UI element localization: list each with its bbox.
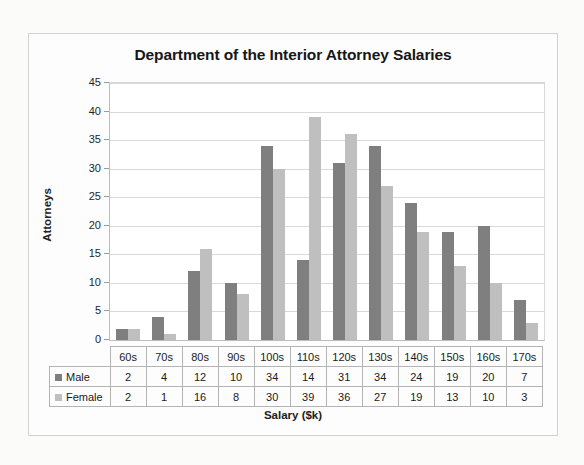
table-cell: 13	[434, 387, 470, 407]
y-axis-tick-mark	[104, 310, 109, 311]
male-swatch-icon	[55, 374, 62, 381]
bar-male-100s	[261, 146, 273, 340]
table-cell: 7	[506, 367, 542, 387]
table-cell: 16	[182, 387, 218, 407]
table-cell: 1	[146, 387, 182, 407]
bar-group	[291, 83, 327, 340]
bar-male-110s	[297, 260, 309, 340]
bar-male-140s	[405, 203, 417, 340]
bar-group	[219, 83, 255, 340]
bar-group	[255, 83, 291, 340]
y-axis-tick-mark	[104, 196, 109, 197]
bar-female-60s	[128, 329, 140, 340]
bar-male-60s	[116, 329, 128, 340]
legend-label: Male	[66, 371, 90, 383]
table-cell: 20	[470, 367, 506, 387]
y-axis-tick-label: 25	[61, 190, 101, 202]
x-axis-title: Salary ($k)	[29, 409, 557, 421]
bar-female-90s	[237, 294, 249, 340]
bar-female-170s	[526, 323, 538, 340]
y-axis-tick-label: 0	[61, 333, 101, 345]
y-axis-tick-mark	[104, 339, 109, 340]
table-cell: 19	[434, 367, 470, 387]
legend-cell-male: Male	[50, 367, 111, 387]
data-table-head: 60s70s80s90s100s110s120s130s140s150s160s…	[50, 347, 543, 367]
bar-female-150s	[454, 266, 466, 340]
legend-label: Female	[66, 391, 103, 403]
table-cell: 8	[218, 387, 254, 407]
bar-male-130s	[369, 146, 381, 340]
bar-male-80s	[188, 271, 200, 340]
table-cell: 10	[470, 387, 506, 407]
bar-male-150s	[442, 232, 454, 341]
bar-group	[327, 83, 363, 340]
bar-male-90s	[225, 283, 237, 340]
table-cell: 14	[290, 367, 326, 387]
bar-male-120s	[333, 163, 345, 340]
bar-female-100s	[273, 169, 285, 340]
y-axis-tick-mark	[104, 111, 109, 112]
table-header-cell: 120s	[326, 347, 362, 367]
table-header-cell: 160s	[470, 347, 506, 367]
table-header-cell: 130s	[362, 347, 398, 367]
bars-layer	[110, 83, 544, 340]
bar-male-70s	[152, 317, 164, 340]
bar-female-140s	[417, 232, 429, 341]
bar-group	[399, 83, 435, 340]
bar-group	[110, 83, 146, 340]
y-axis-tick-label: 10	[61, 276, 101, 288]
y-axis-tick-label: 5	[61, 304, 101, 316]
y-axis-tick-mark	[104, 82, 109, 83]
bar-group	[146, 83, 182, 340]
table-cell: 34	[254, 367, 290, 387]
y-axis-tick-mark	[104, 282, 109, 283]
table-header-cell: 90s	[218, 347, 254, 367]
table-header-cell: 140s	[398, 347, 434, 367]
table-cell: 36	[326, 387, 362, 407]
table-cell: 2	[110, 387, 146, 407]
y-axis-tick-mark	[104, 225, 109, 226]
table-header-cell: 170s	[506, 347, 542, 367]
y-axis-tick-label: 35	[61, 133, 101, 145]
table-cell: 27	[362, 387, 398, 407]
table-header-cell: 70s	[146, 347, 182, 367]
table-header-cell: 100s	[254, 347, 290, 367]
bar-group	[508, 83, 544, 340]
bar-female-130s	[381, 186, 393, 340]
table-cell: 3	[506, 387, 542, 407]
y-axis-tick-mark	[104, 168, 109, 169]
y-axis-tick-mark	[104, 253, 109, 254]
table-header-cell: 110s	[290, 347, 326, 367]
bar-female-110s	[309, 117, 321, 340]
table-row: Male241210341431342419207	[50, 367, 543, 387]
y-axis-tick-label: 20	[61, 219, 101, 231]
table-cell: 2	[110, 367, 146, 387]
y-axis-tick-mark	[104, 139, 109, 140]
table-cell: 34	[362, 367, 398, 387]
plot-area	[109, 82, 545, 341]
table-cell: 19	[398, 387, 434, 407]
table-cell: 30	[254, 387, 290, 407]
table-cell: 4	[146, 367, 182, 387]
bar-group	[182, 83, 218, 340]
table-cell: 10	[218, 367, 254, 387]
female-swatch-icon	[55, 394, 62, 401]
bar-female-70s	[164, 334, 176, 340]
table-header-cell: 150s	[434, 347, 470, 367]
table-corner-cell	[50, 347, 111, 367]
data-table-body: Male241210341431342419207Female211683039…	[50, 367, 543, 407]
bar-group	[436, 83, 472, 340]
bar-female-120s	[345, 134, 357, 340]
table-row: Female21168303936271913103	[50, 387, 543, 407]
bar-female-80s	[200, 249, 212, 340]
chart-screenshot: Department of the Interior Attorney Sala…	[0, 0, 584, 465]
table-cell: 12	[182, 367, 218, 387]
y-axis-tick-label: 15	[61, 247, 101, 259]
table-cell: 24	[398, 367, 434, 387]
y-axis-title: Attorneys	[41, 155, 53, 275]
bar-male-160s	[478, 226, 490, 340]
bar-male-170s	[514, 300, 526, 340]
table-cell: 39	[290, 387, 326, 407]
legend-cell-female: Female	[50, 387, 111, 407]
chart-title: Department of the Interior Attorney Sala…	[29, 46, 557, 64]
